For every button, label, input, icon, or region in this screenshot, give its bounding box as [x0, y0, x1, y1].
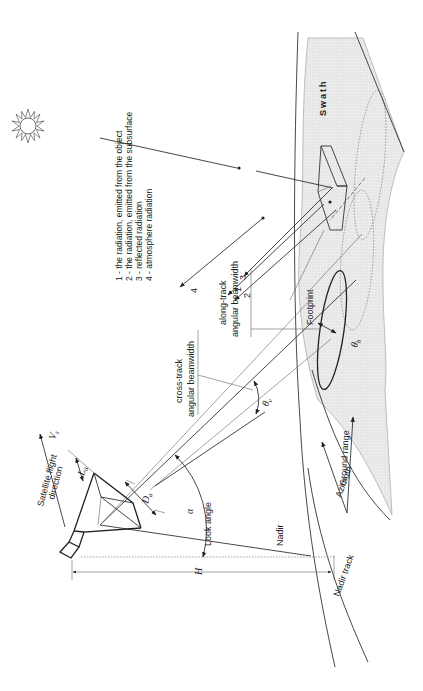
- footprint-label: Footprint: [305, 289, 315, 325]
- legend-item-3: 3 - reflected radiation: [134, 201, 144, 281]
- cross-track-label: cross-track: [174, 358, 184, 403]
- legend-item-4: 4 - atmosphere radiation: [144, 189, 154, 281]
- ray-4-label: 4: [189, 288, 199, 293]
- ray-2-label: 2: [242, 293, 252, 298]
- swath-label: Swath: [318, 79, 328, 116]
- sun-icon: [12, 109, 44, 143]
- nadir-label: Nadir: [275, 524, 285, 546]
- along-track-label: along-track: [218, 280, 228, 325]
- cross-track-label-2: angular beamwidth: [186, 341, 196, 417]
- nadir-track-label: Nadir track: [331, 553, 355, 598]
- height-label: H: [193, 567, 204, 576]
- theta-v-label: θv: [260, 396, 275, 409]
- along-track-label-2: angular beamwidth: [230, 261, 240, 337]
- legend-item-2: 2 - the radiation, emitted from the subs…: [124, 112, 134, 281]
- look-angle-label: Look angle: [203, 502, 213, 546]
- alpha-label: α: [184, 508, 195, 514]
- velocity-label: Vs: [46, 429, 61, 441]
- legend-item-1: 1 - the radiation, emitted from the obje…: [114, 130, 124, 281]
- antenna-diameter-label: Da: [139, 491, 155, 506]
- antenna-length-label: La: [75, 464, 90, 478]
- remote-sensing-diagram: Swath 1 2 3 4 1 - the radiation, emitted…: [0, 0, 423, 691]
- legend: 1 - the radiation, emitted from the obje…: [114, 112, 154, 281]
